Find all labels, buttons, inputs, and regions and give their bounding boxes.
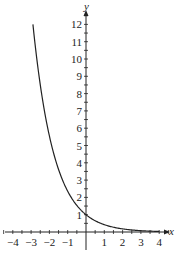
- x-tick-label: 3: [138, 236, 144, 248]
- y-tick-label: 8: [77, 88, 83, 100]
- chart: −4−3−2−11234123456789101112 x y: [0, 0, 175, 259]
- y-axis-label: y: [83, 0, 89, 12]
- y-tick-label: 5: [77, 140, 83, 152]
- x-tick-label: −2: [44, 236, 56, 248]
- data-curve: [33, 24, 159, 231]
- x-tick-label: 2: [120, 236, 126, 248]
- y-tick-label: 4: [77, 157, 83, 169]
- y-tick-label: 2: [77, 191, 83, 203]
- x-tick-label: 1: [102, 236, 108, 248]
- x-tick-label: −3: [25, 236, 37, 248]
- y-tick-label: 11: [71, 36, 82, 48]
- axes: [5, 10, 170, 250]
- x-axis-label: x: [168, 225, 174, 237]
- x-tick-label: −1: [62, 236, 74, 248]
- y-tick-label: 9: [77, 70, 83, 82]
- y-tick-label: 6: [77, 122, 83, 134]
- x-tick-label: −4: [7, 236, 19, 248]
- x-tick-label: 4: [156, 236, 162, 248]
- y-tick-label: 10: [71, 53, 83, 65]
- y-tick-label: 12: [71, 18, 82, 30]
- y-tick-label: 3: [77, 174, 83, 186]
- y-tick-label: 7: [77, 105, 83, 117]
